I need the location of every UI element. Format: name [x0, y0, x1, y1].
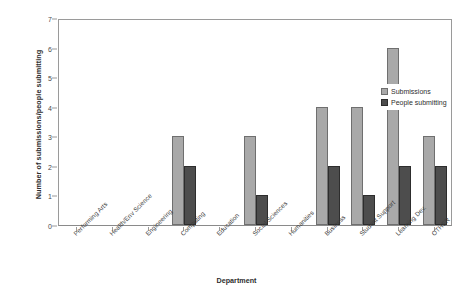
bar-submissions	[423, 136, 435, 225]
bar-submissions	[387, 48, 399, 225]
y-tick-mark	[52, 78, 57, 79]
y-tick-label: 0	[12, 223, 52, 230]
plot-area	[58, 19, 452, 226]
y-tick-label: 5	[12, 75, 52, 82]
bars-container	[59, 20, 451, 225]
y-tick-label: 6	[12, 45, 52, 52]
legend-item-people-submitting: People submitting	[381, 97, 447, 108]
y-tick-mark	[52, 48, 57, 49]
legend-item-submissions: Submissions	[381, 86, 447, 97]
bar-submissions	[244, 136, 256, 225]
y-tick-mark	[52, 107, 57, 108]
bar-submissions	[316, 107, 328, 225]
legend-label: Submissions	[391, 88, 431, 95]
y-tick-label: 2	[12, 163, 52, 170]
bar-group	[387, 20, 411, 225]
legend-swatch-icon	[381, 88, 388, 95]
bar-group	[316, 20, 340, 225]
y-tick-label: 4	[12, 104, 52, 111]
legend-label: People submitting	[391, 99, 447, 106]
bar-group	[208, 20, 232, 225]
y-axis-ticks: 01234567	[0, 0, 58, 246]
bar-group	[172, 20, 196, 225]
bar-group	[423, 20, 447, 225]
bar-group	[244, 20, 268, 225]
y-tick-mark	[52, 137, 57, 138]
y-tick-mark	[52, 196, 57, 197]
chart-legend: Submissions People submitting	[378, 84, 450, 110]
bar-chart: Number of submissions/people submitting …	[0, 0, 473, 298]
y-tick-mark	[52, 19, 57, 20]
legend-swatch-icon	[381, 99, 388, 106]
bar-group	[351, 20, 375, 225]
y-tick-mark	[52, 166, 57, 167]
bar-submissions	[351, 107, 363, 225]
x-axis-title: Department	[0, 276, 473, 285]
bar-group	[280, 20, 304, 225]
bar-group	[101, 20, 125, 225]
bar-group	[65, 20, 89, 225]
y-tick-label: 3	[12, 134, 52, 141]
y-tick-label: 1	[12, 193, 52, 200]
y-tick-mark	[52, 226, 57, 227]
y-tick-label: 7	[12, 16, 52, 23]
